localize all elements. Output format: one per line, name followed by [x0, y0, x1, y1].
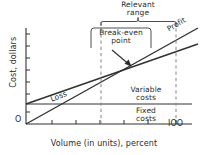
breakeven-point-label: Break-even point [92, 29, 150, 45]
variable-costs-label-line2: costs [124, 94, 168, 102]
breakeven-pointer-arrow [112, 50, 132, 67]
y-axis-title: Cost, dollars [10, 30, 19, 94]
fixed-costs-label: Fixed costs [124, 107, 168, 123]
x-axis-title: Volume (in units), percent [24, 140, 184, 149]
y-axis [26, 28, 30, 124]
variable-costs-label: Variable costs [124, 86, 168, 102]
relevant-range-label: Relevant range [98, 1, 178, 17]
break-even-chart: Cost, dollars Volume (in units), percent… [0, 0, 207, 155]
relevant-range-label-line2: range [98, 9, 178, 17]
breakeven-point-label-line2: point [92, 37, 150, 45]
origin-tick-label: O [15, 116, 21, 125]
x-max-tick-label: IOO [168, 120, 183, 129]
fixed-costs-label-line2: costs [124, 115, 168, 123]
